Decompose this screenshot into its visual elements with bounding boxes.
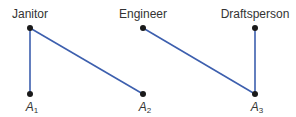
node-dot-draftsperson [252, 25, 258, 31]
bipartite-graph: Janitor Engineer Draftsperson A1 A2 A3 [0, 0, 296, 117]
node-dot-a1 [27, 91, 33, 97]
node-dot-a2 [140, 91, 146, 97]
node-label-a1: A1 [26, 100, 38, 117]
node-label-draftsperson: Draftsperson [221, 7, 290, 21]
node-label-janitor: Janitor [12, 7, 48, 21]
node-dot-engineer [140, 25, 146, 31]
edge-engineer-a3 [143, 28, 255, 94]
node-dot-a3 [252, 91, 258, 97]
node-dot-janitor [27, 25, 33, 31]
node-label-engineer: Engineer [119, 7, 167, 21]
node-label-a2: A2 [139, 100, 151, 117]
edge-janitor-a2 [30, 28, 143, 94]
node-label-a3: A3 [251, 100, 263, 117]
